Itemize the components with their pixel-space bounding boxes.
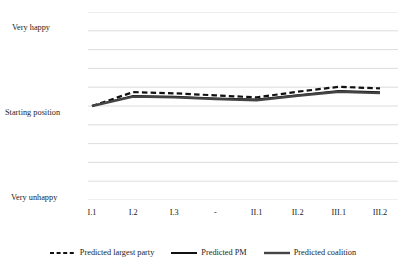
chart-legend: Predicted largest partyPredicted PMPredi…	[0, 243, 406, 263]
x-tick--: -	[214, 209, 217, 217]
plot-area	[88, 12, 398, 200]
solid-line-swatch	[171, 249, 197, 257]
series-lines	[92, 87, 380, 106]
x-tick-III-1: III.1	[332, 209, 347, 217]
x-tick-I-1: I.1	[88, 209, 97, 217]
legend-item-1: Predicted PM	[171, 249, 246, 257]
legend-label-2: Predicted coalition	[294, 249, 356, 257]
x-tick-III-2: III.2	[373, 209, 388, 217]
series-line-2	[92, 92, 380, 106]
dashed-line-swatch	[50, 249, 76, 257]
x-tick-I-2: I.2	[129, 209, 138, 217]
y-axis-label-starting-position: Starting position	[5, 109, 60, 117]
x-tick-II-1: II.1	[251, 209, 263, 217]
thick-solid-line-swatch	[264, 249, 290, 257]
y-axis-label-very-unhappy: Very unhappy	[11, 194, 57, 202]
legend-label-1: Predicted PM	[201, 249, 246, 257]
legend-item-0: Predicted largest party	[50, 249, 155, 257]
legend-item-2: Predicted coalition	[264, 249, 356, 257]
legend-label-0: Predicted largest party	[80, 249, 155, 257]
x-tick-I-3: I.3	[170, 209, 179, 217]
y-axis-label-very-happy: Very happy	[12, 24, 50, 32]
chart-figure: Very happy Starting position Very unhapp…	[0, 0, 406, 275]
gridlines	[88, 12, 398, 200]
x-tick-II-2: II.2	[292, 209, 304, 217]
